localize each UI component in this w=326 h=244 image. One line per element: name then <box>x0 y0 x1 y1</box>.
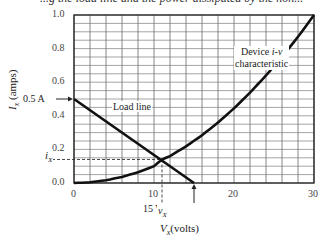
x-axis-label: Vx(volts) <box>160 222 199 237</box>
vx-subscript: X <box>162 211 166 219</box>
y-tick-label: 1.0 <box>52 8 65 19</box>
x-axis-symbol: V <box>160 222 167 234</box>
x-tick-label: 20 <box>228 188 238 199</box>
ix-label: iX <box>44 149 53 164</box>
y-tick-label: 0.2 <box>52 142 65 153</box>
y-tick-label: 0.8 <box>52 42 65 53</box>
load-line-label: Load line <box>112 101 152 112</box>
current-arrow-head <box>68 97 73 102</box>
x-tick-label: 30 <box>308 188 318 199</box>
x-tick-label: 10 <box>148 188 158 199</box>
y-axis-label: Ix (amps) <box>6 69 21 110</box>
device-label-characteristic: characteristic <box>235 58 288 69</box>
y-axis-units: (amps) <box>6 69 18 102</box>
grid <box>74 15 314 183</box>
y-axis-symbol: I <box>6 106 18 110</box>
y-tick-label: 0.6 <box>52 75 65 86</box>
vx-label: vX <box>157 205 168 219</box>
x-axis-units: (volts) <box>170 222 199 234</box>
current-intercept-label: 0.5 A <box>22 93 46 104</box>
ix-subscript: X <box>48 156 52 164</box>
y-tick-label: 0.4 <box>52 109 65 120</box>
annotation-arrows <box>56 97 197 204</box>
voltage-arrow-head <box>192 184 197 189</box>
y-tick-label: 0.0 <box>52 176 65 187</box>
y-axis-subscript: x <box>12 103 21 107</box>
device-curve-label: Device i-v characteristic <box>234 46 289 70</box>
device-label-iv: i-v <box>272 46 283 57</box>
device-label-text: Device <box>241 46 272 57</box>
x-tick-label: 0 <box>71 188 76 199</box>
